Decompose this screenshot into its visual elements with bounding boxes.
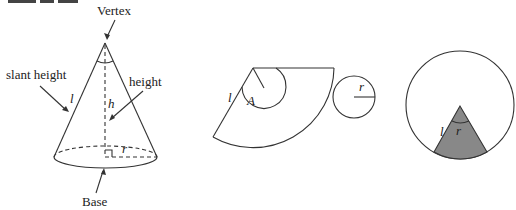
cone-figure bbox=[40, 20, 157, 193]
net-angle-A-label: A bbox=[246, 93, 255, 108]
base-label: Base bbox=[82, 194, 108, 209]
circle-sector-figure bbox=[406, 51, 514, 159]
height-h-label: h bbox=[108, 96, 115, 111]
height-label: height bbox=[129, 74, 162, 89]
vertex-label: Vertex bbox=[97, 3, 131, 18]
cone-diagram: Vertex slant height height Base l h r l … bbox=[0, 0, 516, 210]
slant-l-label: l bbox=[70, 91, 74, 106]
radius-r-label: r bbox=[122, 141, 128, 156]
net-r-label: r bbox=[359, 79, 365, 94]
cone-net-figure bbox=[213, 68, 375, 148]
sector-l-label: l bbox=[440, 124, 444, 139]
clipped-title bbox=[8, 0, 78, 3]
net-l-label: l bbox=[228, 90, 232, 105]
slant-height-label: slant height bbox=[6, 67, 67, 82]
